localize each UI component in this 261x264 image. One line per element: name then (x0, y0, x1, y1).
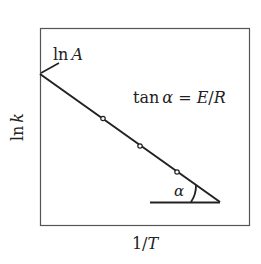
angle-arc (191, 185, 196, 202)
slope-equation: tanα = E/R (133, 88, 226, 107)
intercept-pointer (41, 63, 59, 73)
data-point (138, 144, 142, 148)
angle-label: α (174, 182, 184, 200)
x-axis-label: 1/T (132, 234, 160, 253)
arrhenius-diagram: lnA tanα = E/R α lnk 1/T (0, 0, 261, 264)
intercept-label: lnA (53, 45, 83, 64)
data-point (101, 116, 105, 120)
y-axis-label: lnk (8, 113, 27, 141)
data-point (175, 170, 179, 174)
